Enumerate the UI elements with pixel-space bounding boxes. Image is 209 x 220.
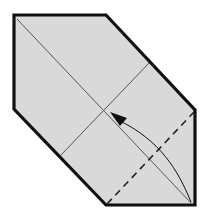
diagram-canvas [0,0,209,220]
origami-diagram [0,0,209,220]
